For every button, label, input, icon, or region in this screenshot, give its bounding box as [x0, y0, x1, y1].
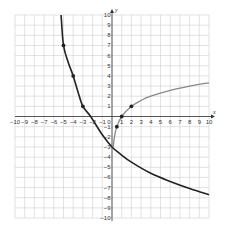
data-point-marker: [130, 104, 134, 108]
y-tick-label: −1: [104, 124, 112, 130]
x-tick-label: 3: [139, 119, 143, 125]
x-tick-label: −8: [31, 119, 39, 125]
data-point-marker: [115, 125, 119, 129]
x-tick-label: 8: [188, 119, 192, 125]
data-point-marker: [71, 74, 75, 78]
x-tick-label: −10: [10, 119, 21, 125]
y-tick-label: −10: [100, 215, 111, 221]
y-tick-label: 10: [104, 12, 111, 18]
x-tick-label: 5: [159, 119, 163, 125]
x-axis-label: x: [212, 109, 216, 115]
x-tick-label: 4: [149, 119, 153, 125]
y-axis-label: y: [114, 7, 118, 13]
data-point-marker: [62, 44, 66, 48]
x-tick-label: 7: [178, 119, 182, 125]
data-point-marker: [81, 104, 85, 108]
y-tick-label: −7: [104, 185, 112, 191]
y-tick-label: −6: [104, 174, 112, 180]
x-tick-label: −4: [70, 119, 78, 125]
x-tick-label: −5: [60, 119, 68, 125]
y-tick-label: −4: [104, 154, 112, 160]
y-tick-label: −8: [104, 195, 112, 201]
x-tick-label: 6: [169, 119, 173, 125]
y-tick-label: −5: [104, 164, 112, 170]
x-tick-label: 9: [198, 119, 202, 125]
coordinate-plane: xy −10−9−8−7−6−5−4−3−2−1012345678910−10−…: [0, 0, 225, 234]
x-tick-label: 2: [130, 119, 134, 125]
axes: xy: [15, 7, 216, 221]
x-tick-label: −6: [50, 119, 58, 125]
y-tick-label: −9: [104, 205, 112, 211]
x-tick-label: −7: [41, 119, 49, 125]
data-point-marker: [120, 115, 124, 119]
x-tick-label: 10: [206, 119, 213, 125]
x-tick-label: −3: [79, 119, 87, 125]
gray-curve: [113, 83, 209, 147]
x-tick-label: −9: [21, 119, 29, 125]
y-axis-arrow-icon: [110, 9, 114, 13]
